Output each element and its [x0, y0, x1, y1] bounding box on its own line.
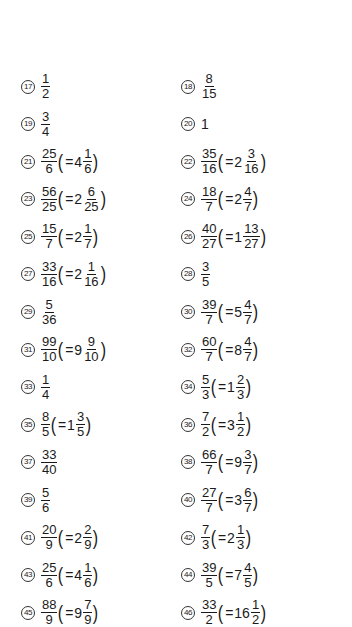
denominator: 6 [45, 162, 54, 176]
mixed-fraction-part: 67 [243, 486, 252, 515]
open-paren: ( [218, 302, 223, 322]
numerator: 13 [243, 222, 259, 237]
answer-item: 45889(=979) [21, 594, 99, 627]
mixed-whole-part: 1 [67, 417, 75, 433]
mixed-number-equivalent: (=2316) [217, 147, 266, 176]
denominator: 7 [205, 463, 214, 477]
answer-item: 3956 [21, 482, 50, 519]
close-paren: ) [261, 603, 266, 623]
mixed-number-equivalent: (=745) [217, 561, 259, 590]
numerator: 7 [201, 410, 210, 425]
answer-item: 264027(=11327) [181, 218, 266, 255]
answer-row: 33143453(=123) [0, 369, 352, 407]
equals-sign: = [218, 530, 226, 546]
fraction-answer: 56 [41, 486, 50, 515]
denominator: 2 [201, 425, 210, 439]
answer-item: 4273(=213) [181, 519, 252, 556]
close-paren: ) [93, 603, 98, 623]
answer-item: 46332(=1612) [181, 594, 267, 627]
numerator: 40 [201, 222, 217, 237]
mixed-number-equivalent: (=11327) [217, 222, 266, 251]
numerator: 4 [243, 298, 252, 313]
open-paren: ( [58, 340, 63, 360]
denominator: 6 [45, 576, 54, 590]
answer-item: 43256(=416) [21, 557, 99, 594]
answer-row: 45889(=979)46332(=1612) [0, 594, 352, 627]
denominator: 25 [83, 200, 99, 214]
numerator: 8 [205, 72, 214, 87]
mixed-whole-part: 3 [227, 417, 235, 433]
denominator: 16 [243, 162, 259, 176]
denominator: 7 [243, 350, 252, 364]
open-paren: ( [211, 377, 216, 397]
answer-row: 43256(=416)44395(=745) [0, 557, 352, 595]
close-paren: ) [100, 189, 105, 209]
mixed-number-equivalent: (=9910) [57, 335, 106, 364]
denominator: 7 [243, 501, 252, 515]
fraction-answer: 4027 [201, 222, 217, 251]
mixed-number-equivalent: (=312) [210, 410, 252, 439]
denominator: 25 [41, 200, 57, 214]
close-paren: ) [253, 565, 258, 585]
open-paren: ( [218, 603, 223, 623]
mixed-whole-part: 2 [227, 530, 235, 546]
close-paren: ) [253, 340, 258, 360]
open-paren: ( [58, 528, 63, 548]
answer-row: 37334038667(=937) [0, 444, 352, 482]
mixed-fraction-part: 1327 [243, 222, 259, 251]
circled-number: 20 [181, 117, 195, 131]
numerator: 27 [201, 486, 217, 501]
circled-number: 28 [181, 267, 195, 281]
mixed-whole-part: 16 [234, 605, 250, 621]
open-paren: ( [218, 189, 223, 209]
denominator: 10 [41, 350, 57, 364]
numerator: 33 [41, 448, 57, 463]
circled-number: 27 [21, 267, 35, 281]
fraction-answer: 536 [41, 298, 57, 327]
circled-number: 34 [181, 380, 195, 394]
mixed-whole-part: 2 [74, 530, 82, 546]
denominator: 7 [243, 200, 252, 214]
equals-sign: = [225, 605, 233, 621]
open-paren: ( [211, 415, 216, 435]
equals-sign: = [225, 492, 233, 508]
mixed-fraction-part: 16 [83, 147, 92, 176]
denominator: 16 [201, 162, 217, 176]
answer-item: 41209(=229) [21, 519, 99, 556]
mixed-whole-part: 9 [234, 454, 242, 470]
fraction-answer: 12 [41, 72, 50, 101]
answer-item: 18815 [181, 68, 217, 105]
fraction-answer: 277 [201, 486, 217, 515]
circled-number: 45 [21, 606, 35, 620]
mixed-whole-part: 4 [74, 154, 82, 170]
numerator: 66 [201, 448, 217, 463]
answer-row: 21256(=416)223516(=2316) [0, 143, 352, 181]
circled-number: 33 [21, 380, 35, 394]
numerator: 5 [41, 486, 50, 501]
denominator: 16 [83, 275, 99, 289]
answer-item: 3672(=312) [181, 406, 252, 443]
numerator: 4 [243, 185, 252, 200]
denominator: 3 [201, 538, 210, 552]
mixed-fraction-part: 12 [251, 598, 260, 627]
equals-sign: = [218, 379, 226, 395]
denominator: 7 [243, 463, 252, 477]
numerator: 33 [41, 260, 57, 275]
open-paren: ( [58, 264, 63, 284]
equals-sign: = [65, 266, 73, 282]
equals-sign: = [225, 454, 233, 470]
open-paren: ( [58, 227, 63, 247]
answer-item: 273316(=2116) [21, 256, 106, 293]
numerator: 1 [236, 410, 245, 425]
fraction-answer: 395 [201, 561, 217, 590]
equals-sign: = [65, 342, 73, 358]
mixed-fraction-part: 47 [243, 335, 252, 364]
close-paren: ) [260, 152, 265, 172]
mixed-fraction-part: 13 [236, 523, 245, 552]
circled-number: 43 [21, 568, 35, 582]
numerator: 3 [201, 260, 210, 275]
denominator: 7 [45, 237, 54, 251]
denominator: 5 [201, 275, 210, 289]
close-paren: ) [93, 227, 98, 247]
mixed-whole-part: 2 [234, 154, 242, 170]
